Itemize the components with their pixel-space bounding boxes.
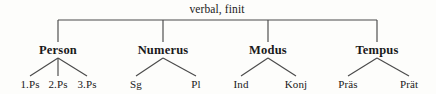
- verb-feature-tree-diagram: verbal, finit Person Numerus Modus Tempu…: [0, 0, 436, 94]
- root-node-label: verbal, finit: [190, 4, 245, 16]
- leaf-node-praet: Prät: [400, 79, 418, 90]
- category-node-tempus: Tempus: [355, 44, 398, 57]
- leaf-node-2ps: 2.Ps: [48, 79, 67, 90]
- category-node-modus: Modus: [249, 44, 287, 57]
- leaf-node-1ps: 1.Ps: [20, 79, 39, 90]
- leaf-node-sg: Sg: [130, 79, 142, 90]
- leaf-node-konj: Konj: [285, 79, 307, 90]
- leaf-node-ind: Ind: [234, 79, 249, 90]
- category-node-person: Person: [39, 44, 77, 57]
- category-node-numerus: Numerus: [138, 44, 189, 57]
- leaf-node-3ps: 3.Ps: [77, 79, 96, 90]
- leaf-node-pl: Pl: [191, 79, 200, 90]
- leaf-node-praes: Präs: [338, 79, 357, 90]
